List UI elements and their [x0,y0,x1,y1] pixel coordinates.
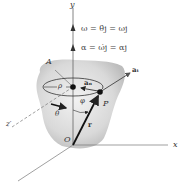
y-axis-label: y [70,1,75,9]
rho-label: ρ [58,83,62,90]
center-point [70,84,76,90]
theta-label: θ [55,111,59,118]
point-p [97,89,103,95]
origin-label: O [64,136,71,144]
a-t-label: aₜ [132,66,139,73]
r-label: r [88,121,92,128]
omega-equation: ω = θ̇j = ωj [81,25,127,33]
alpha-equation: α = ω̇j = αj [81,44,127,52]
point-a-label: A [46,58,52,66]
x-axis-label: x [173,141,178,149]
z-axis [18,145,73,181]
phi-label: φ [80,98,85,105]
diagram-canvas: y ω = θ̇j = ωj α = ω̇j = αj A ρ aₙ aₜ P … [0,0,193,187]
alpha-arrow-icon [71,44,76,51]
omega-arrow-icon [71,24,76,31]
z-prime-axis-label: z′ [6,121,11,128]
a-n-label: aₙ [84,79,92,86]
point-p-label: P [103,100,108,108]
